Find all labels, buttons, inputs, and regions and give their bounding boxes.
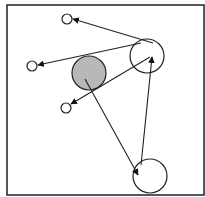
- diagram-frame: [7, 5, 204, 195]
- node-small-top: [62, 14, 72, 24]
- network-diagram: [0, 0, 205, 197]
- node-small-bottom-left: [61, 103, 71, 113]
- node-small-left: [27, 61, 37, 71]
- node-large-bottom: [133, 159, 167, 193]
- node-grey-center: [72, 56, 106, 90]
